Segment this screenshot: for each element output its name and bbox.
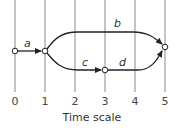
axis-title: Time scale	[62, 111, 122, 124]
activity-d-label: d	[119, 56, 127, 69]
activity-c-label: c	[82, 56, 88, 69]
event-node-0	[12, 48, 18, 54]
tick-label-0: 0	[12, 95, 19, 108]
network-diagram: a b c d 0 1 2 3 4 5 Time scale	[0, 0, 180, 128]
event-node-3	[102, 67, 108, 73]
tick-label-5: 5	[162, 95, 169, 108]
tick-label-3: 3	[102, 95, 109, 108]
event-node-1	[42, 48, 48, 54]
tick-label-2: 2	[72, 95, 79, 108]
tick-label-1: 1	[42, 95, 49, 108]
tick-label-4: 4	[132, 95, 139, 108]
activity-b-label: b	[114, 17, 121, 30]
event-node-5	[162, 44, 168, 50]
activity-c-arrow	[47, 53, 101, 70]
activity-a-label: a	[24, 37, 31, 50]
time-axis-ticks: 0 1 2 3 4 5	[12, 95, 169, 108]
time-grid	[15, 0, 165, 92]
